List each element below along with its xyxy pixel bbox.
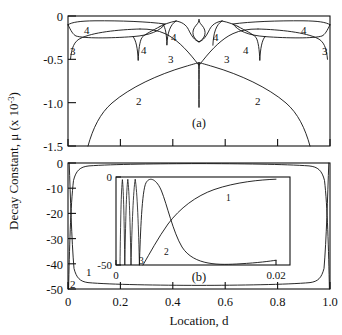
panel-a-label-3-midright: 3 xyxy=(224,53,230,65)
panel-b-inset: 0 -50 0 0.02 1 2 3 xyxy=(97,171,290,281)
panel-b-label-2: 2 xyxy=(70,278,76,290)
panel-a-ytick-1: -0.5 xyxy=(43,53,63,67)
panel-a-label-4-centerright: 4 xyxy=(213,31,219,43)
x-axis-title: Location, d xyxy=(169,313,229,328)
inset-label-3: 3 xyxy=(139,256,144,266)
panel-a-label-3-left: 3 xyxy=(70,45,76,57)
inset-xtick-0: 0 xyxy=(113,269,119,281)
y-axis-title-main: Decay Constant, μ (x 10 xyxy=(6,104,21,230)
panel-b-caption: (b) xyxy=(192,270,207,284)
panel-a-x-ticks xyxy=(68,139,330,146)
panel-b-x-ticklabels: 0 0.2 0.4 0.6 0.8 1.0 xyxy=(65,295,338,309)
panel-b-xtick-0: 0 xyxy=(65,295,71,309)
panel-a-label-2-right: 2 xyxy=(255,95,261,107)
panel-b-ytick-0: 0 xyxy=(57,157,63,171)
panel-a-ytick-3: -1.5 xyxy=(43,140,63,154)
panel-a-caption: (a) xyxy=(192,116,206,130)
panel-a-label-3-midleft: 3 xyxy=(168,53,174,65)
panel-b-label-1: 1 xyxy=(86,266,92,278)
y-axis-title: Decay Constant, μ (x 10-3) xyxy=(6,92,21,230)
panel-a-curve-mode-2 xyxy=(88,63,310,146)
panel-b-xtick-4: 0.8 xyxy=(270,295,286,309)
panel-a-y-ticklabels: 0 -0.5 -1.0 -1.5 xyxy=(43,10,63,154)
panel-b-ytick-3: -30 xyxy=(46,233,63,247)
panel-b-ytick-5: -50 xyxy=(46,283,63,297)
panel-b-ytick-1: -10 xyxy=(46,182,63,196)
panel-b-ytick-2: -20 xyxy=(46,207,63,221)
panel-a-label-3-right: 3 xyxy=(322,45,328,57)
figure-container: Decay Constant, μ (x 10-3) 0 -0.5 xyxy=(0,0,342,335)
panel-a-label-4-left: 4 xyxy=(84,24,90,36)
y-axis-title-close: ) xyxy=(6,92,21,96)
panel-b-xtick-5: 1.0 xyxy=(322,295,338,309)
panel-a-ytick-2: -1.0 xyxy=(43,97,63,111)
panel-a-curve-mode-4 xyxy=(68,20,330,61)
svg-text:Decay Constant, μ (x 10-3): Decay Constant, μ (x 10-3) xyxy=(6,92,21,230)
figure-svg: Decay Constant, μ (x 10-3) 0 -0.5 xyxy=(0,0,342,335)
inset-label-1: 1 xyxy=(226,193,231,203)
panel-a-label-4-centerleft: 4 xyxy=(171,31,177,43)
panel-b-y-ticklabels: 0 -10 -20 -30 -40 -50 xyxy=(46,157,63,297)
inset-ytick-1: -50 xyxy=(97,259,112,271)
panel-a-label-4-midright: 4 xyxy=(243,44,249,56)
panel-a-curve-mode-3 xyxy=(71,29,328,65)
panel-a-ytick-0: 0 xyxy=(57,10,63,24)
panel-a-label-4-midleft: 4 xyxy=(141,44,147,56)
panel-a-label-4-right: 4 xyxy=(301,24,307,36)
inset-ytick-0: 0 xyxy=(107,171,113,183)
panel-a-label-2-left: 2 xyxy=(136,95,142,107)
panel-a: 0 -0.5 -1.0 -1.5 xyxy=(43,10,330,154)
panel-b-xtick-1: 0.2 xyxy=(113,295,129,309)
panel-b: 0 -10 -20 -30 -40 -50 0 0.2 0.4 0.6 0.8 … xyxy=(46,157,337,309)
inset-xtick-1: 0.02 xyxy=(266,269,285,281)
y-axis-title-exponent: -3 xyxy=(6,96,16,103)
panel-b-ytick-4: -40 xyxy=(46,258,63,272)
panel-b-xtick-2: 0.4 xyxy=(165,295,181,309)
panel-b-xtick-3: 0.6 xyxy=(217,295,233,309)
inset-label-2: 2 xyxy=(164,247,169,257)
inset-frame xyxy=(116,177,290,265)
